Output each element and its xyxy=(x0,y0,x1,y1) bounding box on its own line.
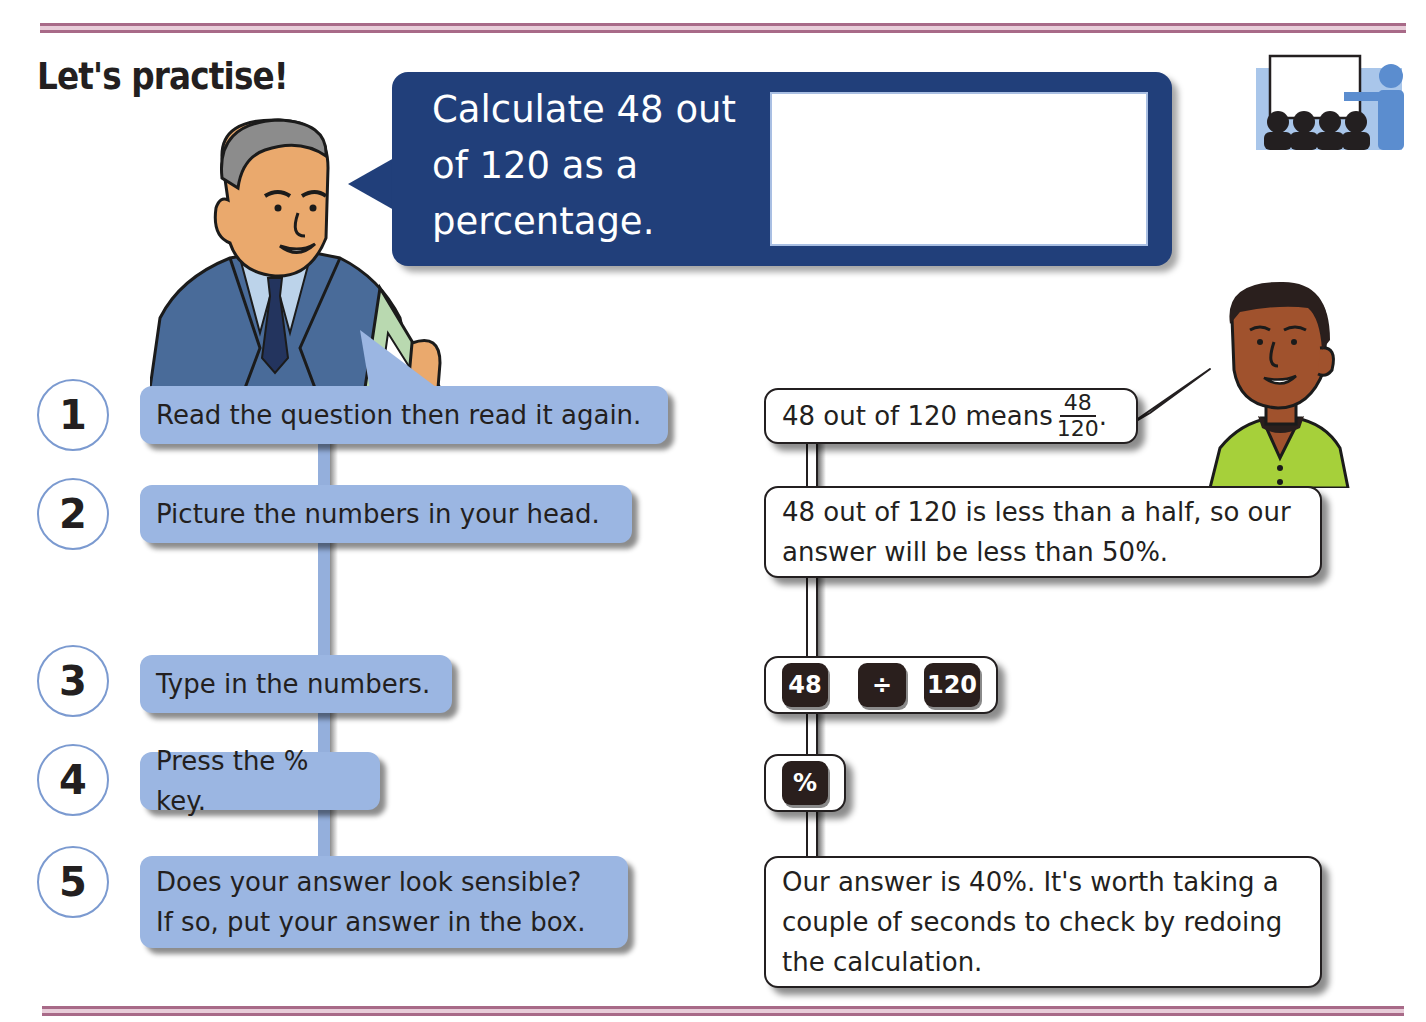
step-2-text: Picture the numbers in your head. xyxy=(156,494,616,534)
worked-step-3-box: 48 ÷ 120 xyxy=(764,656,998,714)
answer-box[interactable] xyxy=(770,92,1148,246)
question-line: Calculate 48 out xyxy=(432,82,772,138)
student-illustration xyxy=(1200,278,1360,488)
step-5-text-line: Does your answer look sensible? xyxy=(156,862,612,902)
fraction-denominator: 120 xyxy=(1057,417,1099,441)
question-text: Calculate 48 out of 120 as a percentage. xyxy=(432,82,772,250)
worked-step-4-box: % xyxy=(764,754,846,812)
step-2-box: Picture the numbers in your head. xyxy=(140,485,632,543)
step-number-5: 5 xyxy=(37,846,109,918)
calculator-key-percent: % xyxy=(782,761,828,805)
step-4-text: Press the % key. xyxy=(156,741,364,821)
worked-step-5-line: couple of seconds to check by redoing xyxy=(782,902,1304,942)
step-number-4: 4 xyxy=(37,744,109,816)
step-number-3: 3 xyxy=(37,645,109,717)
step-5-text-line: If so, put your answer in the box. xyxy=(156,902,612,942)
worked-step-5-line: Our answer is 40%. It's worth taking a xyxy=(782,862,1304,902)
worked-step-5-box: Our answer is 40%. It's worth taking a c… xyxy=(764,856,1322,988)
question-line: percentage. xyxy=(432,194,772,250)
question-bubble: Calculate 48 out of 120 as a percentage. xyxy=(392,72,1172,266)
calculator-key-divide: ÷ xyxy=(858,663,906,707)
worked-step-1-text: 48 out of 120 means xyxy=(782,396,1053,436)
fraction-numerator: 48 xyxy=(1060,391,1096,417)
step-1-box: Read the question then read it again. xyxy=(140,386,668,444)
fraction-48-over-120: 48 120 xyxy=(1057,391,1099,441)
worked-step-2-line: answer will be less than 50%. xyxy=(782,532,1304,572)
worked-step-2-box: 48 out of 120 is less than a half, so ou… xyxy=(764,486,1322,578)
worked-step-2-line: 48 out of 120 is less than a half, so ou… xyxy=(782,492,1304,532)
classroom-whiteboard-icon xyxy=(1256,54,1406,150)
step-number-2: 2 xyxy=(37,478,109,550)
question-bubble-tail xyxy=(348,158,394,210)
worked-step-1-suffix: . xyxy=(1099,396,1107,436)
step-3-text: Type in the numbers. xyxy=(156,664,436,704)
bottom-divider-rule xyxy=(42,1006,1404,1016)
top-divider-rule xyxy=(40,23,1406,33)
worked-step-1-box: 48 out of 120 means 48 120 . xyxy=(764,388,1138,444)
question-line: of 120 as a xyxy=(432,138,772,194)
step-4-box: Press the % key. xyxy=(140,752,380,810)
step-number-1: 1 xyxy=(37,379,109,451)
page-title: Let's practise! xyxy=(37,54,288,98)
calculator-key-120: 120 xyxy=(924,663,980,707)
calculator-key-48: 48 xyxy=(782,663,828,707)
step-5-box: Does your answer look sensible? If so, p… xyxy=(140,856,628,948)
worked-step-5-line: the calculation. xyxy=(782,942,1304,982)
step-1-text: Read the question then read it again. xyxy=(156,395,652,435)
step-3-box: Type in the numbers. xyxy=(140,655,452,713)
